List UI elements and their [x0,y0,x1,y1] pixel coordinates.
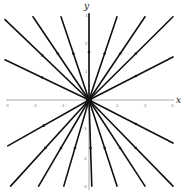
x-tick: -3 [5,103,9,108]
x-tick: 3 [171,103,174,108]
x-tick: -1 [61,103,65,108]
y-tick: 2 [85,41,88,46]
x-tick: 1 [116,103,119,108]
y-tick: -3 [83,184,87,189]
trajectory-ray [89,100,145,186]
trajectory-ray [89,100,173,186]
x-tick: -2 [33,103,37,108]
trajectory-ray [89,17,145,100]
trajectory-ray [39,100,89,186]
y-tick: 3 [85,13,88,18]
arrow-icon [89,147,92,150]
trajectory-ray [89,17,173,100]
x-axis-label: x [176,95,181,105]
origin-node [86,97,92,103]
x-tick: 2 [144,103,147,108]
trajectory-ray [5,20,89,100]
y-tick: -1 [83,126,87,131]
trajectory-ray [33,17,89,100]
phase-portrait: x y -3 -2 -1 1 2 3 3 2 1 -1 -2 -3 [0,0,184,195]
trajectory-ray [89,100,92,186]
y-tick: 1 [85,69,88,74]
y-axis-label: y [83,1,90,11]
trajectory-ray [11,100,89,186]
arrow-icon [87,50,90,53]
y-tick: -2 [83,156,87,161]
